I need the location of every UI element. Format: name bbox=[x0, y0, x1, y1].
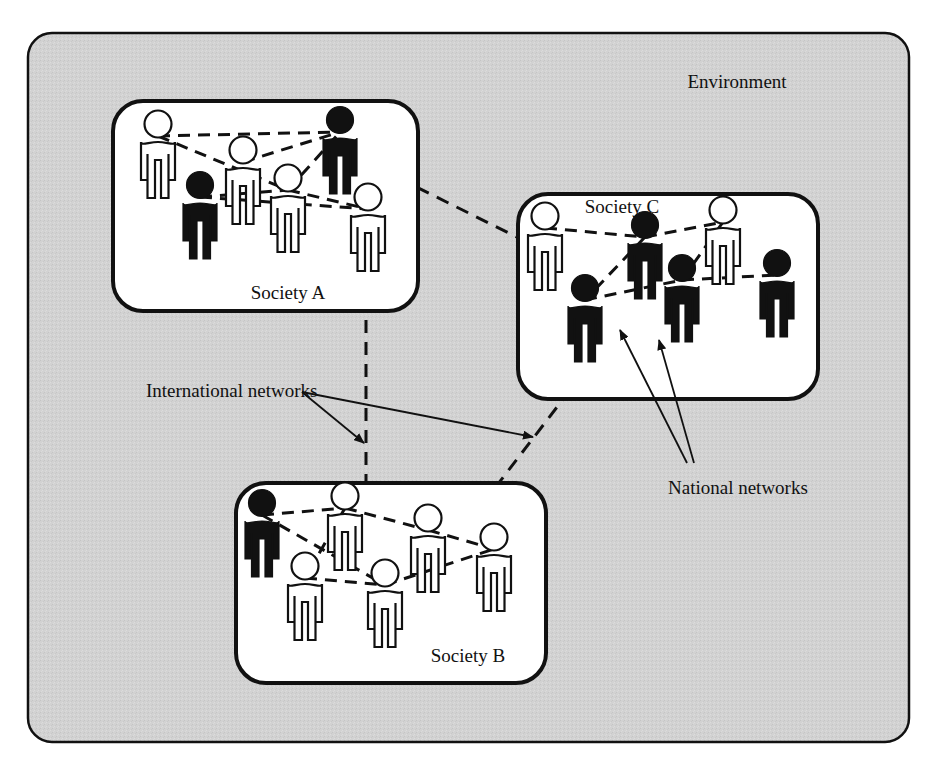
diagram-canvas: Environment Society ASociety CSociety B … bbox=[0, 0, 932, 764]
international-networks-label: International networks bbox=[146, 380, 317, 401]
societies-network-diagram: Environment Society ASociety CSociety B … bbox=[0, 0, 932, 764]
society-a: Society A bbox=[113, 101, 418, 311]
environment-label: Environment bbox=[687, 71, 787, 92]
society-b-label: Society B bbox=[431, 645, 505, 666]
national-networks-label: National networks bbox=[668, 477, 808, 498]
society-a-label: Society A bbox=[251, 282, 326, 303]
society-c-label: Society C bbox=[585, 196, 659, 217]
society-c: Society C bbox=[518, 194, 818, 399]
society-b: Society B bbox=[236, 483, 546, 684]
